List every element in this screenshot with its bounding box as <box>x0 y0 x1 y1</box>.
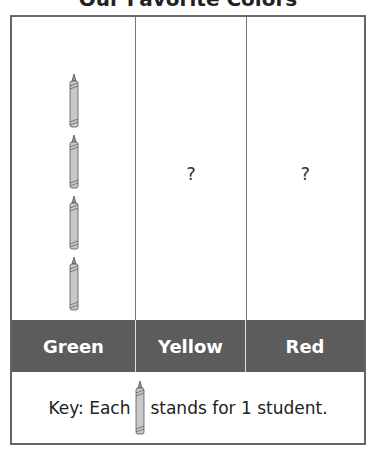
column-red: ? <box>247 17 364 320</box>
pictograph-frame: ? ? Green Yellow Red Key: Each stands fo… <box>10 15 366 445</box>
column-green <box>12 17 136 320</box>
chart-title: Our Favorite Colors <box>0 0 376 11</box>
crayon-icon <box>68 195 80 251</box>
crayon-icon <box>134 380 146 436</box>
label-red: Red <box>246 320 364 372</box>
crayon-stack <box>68 73 80 312</box>
unknown-value-yellow: ? <box>136 163 245 184</box>
label-green: Green <box>12 320 136 372</box>
legend-key: Key: Each stands for 1 student. <box>12 372 364 443</box>
category-labels: Green Yellow Red <box>12 320 364 372</box>
unknown-value-red: ? <box>247 163 364 184</box>
crayon-icon <box>68 134 80 190</box>
key-prefix: Key: Each <box>48 398 130 418</box>
column-yellow: ? <box>136 17 246 320</box>
label-yellow: Yellow <box>136 320 246 372</box>
crayon-icon <box>68 73 80 129</box>
crayon-icon <box>68 256 80 312</box>
key-suffix: stands for 1 student. <box>150 398 327 418</box>
plot-area: ? ? <box>12 17 364 320</box>
